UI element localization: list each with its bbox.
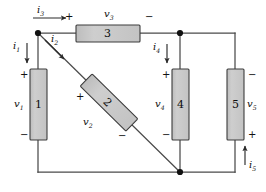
element-1-minus-sign: −: [20, 130, 28, 140]
element-3-minus-sign: −: [145, 12, 153, 22]
element-4-plus-sign: +: [162, 70, 170, 80]
element-3-number: 3: [104, 28, 111, 39]
element-4-number: 4: [177, 99, 184, 110]
node-bottom-mid-dot: [177, 169, 183, 175]
element-2-minus-sign: −: [118, 131, 126, 141]
element-2-voltage-label: v2: [83, 117, 93, 129]
current-i1-label: i1: [13, 41, 20, 53]
element-1-number: 1: [35, 99, 42, 110]
current-i4-label: i4: [153, 42, 160, 54]
element-4-minus-sign: −: [162, 130, 170, 140]
element-1-plus-sign: +: [20, 70, 28, 80]
current-i3-label: i3: [37, 5, 44, 17]
circuit-schematic-canvas: [0, 0, 266, 192]
node-top-right-dot: [177, 30, 183, 36]
element-5-plus-sign: +: [248, 130, 256, 140]
circuit-diagram: 1 2 3 4 5 i3 i1 i2 i4 i5 v1 v2 v3 v4 v5 …: [0, 0, 266, 192]
current-i2-label: i2: [51, 34, 58, 46]
wire-group: [38, 33, 235, 172]
element-5-number: 5: [232, 99, 239, 110]
element-5-minus-sign: −: [248, 70, 256, 80]
element-5-voltage-label: v5: [247, 99, 257, 111]
element-3-voltage-label: v3: [104, 9, 114, 21]
element-3-plus-sign: +: [65, 12, 73, 22]
element-2-plus-sign: +: [76, 92, 84, 102]
node-top-left-dot: [35, 30, 41, 36]
element-1-voltage-label: v1: [14, 99, 24, 111]
current-i5-label: i5: [249, 160, 256, 172]
element-4-voltage-label: v4: [155, 99, 165, 111]
